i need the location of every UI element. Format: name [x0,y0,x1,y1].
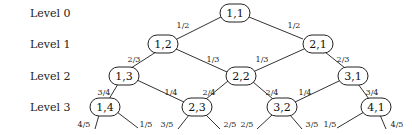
tree-node-n41: 4,1 [361,98,391,116]
node-label: 3,2 [273,101,291,114]
tree-edge [117,112,138,128]
edge-probability-label: 2/5 [224,120,237,129]
level-label: Level 1 [30,38,71,51]
tree-edge [380,115,386,129]
node-label: 3,1 [344,70,362,83]
tree-edge [206,115,220,129]
edge-probability-label: 3/4 [98,88,111,97]
edge-probability-label: 1/2 [288,21,301,30]
node-label: 2,2 [232,70,250,83]
tree-edge [337,112,364,128]
edge-probability-label: 1/5 [140,120,153,129]
node-label: 4,1 [367,101,385,114]
tree-edge [178,115,189,129]
tree-edge [257,115,272,129]
edge-probability-label: 2/3 [337,55,350,64]
tree-node-n12: 1,2 [148,35,178,53]
edge-probability-label: 2/3 [128,55,141,64]
tree-node-n13: 1,3 [109,67,139,85]
edge-probability-label: 4/5 [78,120,91,129]
edge-probability-label: 1/4 [165,88,178,97]
level-label: Level 0 [30,7,71,20]
edge-probability-label: 2/4 [203,88,216,97]
edge-probability-label: 1/4 [299,88,312,97]
node-label: 2,1 [309,38,327,51]
tree-node-n22: 2,2 [226,67,256,85]
edge-probability-label: 4/5 [391,120,404,129]
edge-probability-label: 1/2 [177,21,190,30]
edge-probability-label: 1/3 [207,55,220,64]
tree-node-n11: 1,1 [220,4,250,22]
edge-probability-label: 3/5 [161,120,174,129]
edge-probability-label: 2/5 [241,120,254,129]
tree-edge [95,115,99,129]
edge-probability-label: 3/4 [366,88,379,97]
edge-probability-label: 3/5 [306,120,319,129]
edge-probability-label: 2/4 [266,88,279,97]
edge-probability-label: 1/3 [256,55,269,64]
node-label: 2,3 [188,101,206,114]
level-labels: Level 0Level 1Level 2Level 3 [30,7,71,114]
level-label: Level 3 [30,101,71,114]
tree-node-n21: 2,1 [303,35,333,53]
tree-node-n32: 3,2 [267,98,297,116]
node-label: 1,2 [154,38,172,51]
node-label: 1,4 [96,101,114,114]
tree-edge [290,115,302,129]
node-label: 1,1 [226,7,244,20]
edge-probability-label: 1/5 [324,120,337,129]
tree-node-n23: 2,3 [182,98,212,116]
tree-node-n14: 1,4 [90,98,120,116]
probability-tree-diagram: Level 0Level 1Level 2Level 3 1/21/22/31/… [0,0,412,135]
node-label: 1,3 [115,70,133,83]
tree-node-n31: 3,1 [338,67,368,85]
level-label: Level 2 [30,70,71,83]
